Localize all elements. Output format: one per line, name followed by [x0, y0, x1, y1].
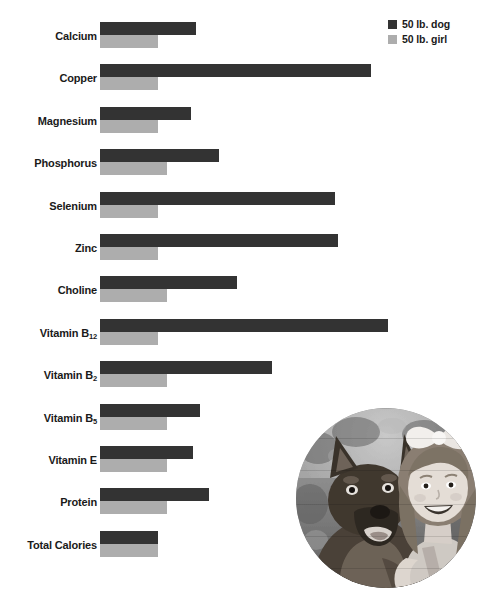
bar-girl-vitamin-b5 [100, 417, 167, 430]
chart-row-phosphorus: Phosphorus [0, 149, 495, 191]
row-label-vitamin-b5-main: Vitamin B [44, 412, 93, 424]
row-bars-zinc [100, 234, 338, 260]
row-label-vitamin-b12: Vitamin B12 [0, 327, 97, 341]
bar-dog-phosphorus [100, 149, 219, 162]
row-bars-vitamin-e [100, 446, 193, 472]
bar-girl-vitamin-b2 [100, 374, 167, 387]
chart-row-calcium: Calcium [0, 22, 495, 64]
bar-girl-protein [100, 501, 167, 514]
row-label-copper: Copper [0, 72, 97, 85]
row-bars-vitamin-b12 [100, 319, 388, 345]
bar-dog-calcium [100, 22, 196, 35]
row-label-vitamin-b2-subscript: 2 [93, 374, 97, 383]
chart-row-copper: Copper [0, 64, 495, 106]
bar-girl-copper [100, 77, 158, 90]
bar-dog-vitamin-b5 [100, 404, 200, 417]
row-bars-phosphorus [100, 149, 219, 175]
dog-and-girl-photo [296, 408, 476, 588]
bar-girl-choline [100, 289, 167, 302]
bar-dog-total-calories [100, 531, 158, 544]
row-label-choline: Choline [0, 284, 97, 297]
bar-girl-selenium [100, 205, 158, 218]
dog-and-girl-photo-graphic [296, 408, 476, 588]
bar-girl-calcium [100, 35, 158, 48]
bar-dog-vitamin-e [100, 446, 193, 459]
row-label-magnesium: Magnesium [0, 115, 97, 128]
row-label-vitamin-b5-subscript: 5 [93, 417, 97, 426]
row-bars-magnesium [100, 107, 191, 133]
bar-dog-copper [100, 64, 371, 77]
row-bars-vitamin-b2 [100, 361, 272, 387]
chart-row-vitamin-b2: Vitamin B2 [0, 361, 495, 403]
bar-dog-protein [100, 488, 209, 501]
bar-girl-total-calories [100, 544, 158, 557]
row-label-phosphorus: Phosphorus [0, 157, 97, 170]
bar-dog-magnesium [100, 107, 191, 120]
row-label-vitamin-b12-main: Vitamin B [40, 327, 89, 339]
bar-girl-zinc [100, 247, 158, 260]
row-label-vitamin-e: Vitamin E [0, 454, 97, 467]
row-bars-calcium [100, 22, 196, 48]
chart-row-vitamin-b12: Vitamin B12 [0, 319, 495, 361]
chart-row-selenium: Selenium [0, 192, 495, 234]
row-bars-vitamin-b5 [100, 404, 200, 430]
row-label-vitamin-b2: Vitamin B2 [0, 369, 97, 383]
bar-dog-zinc [100, 234, 338, 247]
row-bars-total-calories [100, 531, 158, 557]
nutrient-comparison-chart: 50 lb. dog 50 lb. girl Calcium Copper Ma… [0, 0, 495, 596]
chart-row-magnesium: Magnesium [0, 107, 495, 149]
row-label-vitamin-b2-main: Vitamin B [44, 369, 93, 381]
bar-girl-vitamin-e [100, 459, 167, 472]
chart-row-zinc: Zinc [0, 234, 495, 276]
row-label-vitamin-b12-subscript: 12 [89, 332, 97, 341]
bar-dog-vitamin-b12 [100, 319, 388, 332]
bar-dog-selenium [100, 192, 335, 205]
row-bars-choline [100, 276, 237, 302]
bar-dog-vitamin-b2 [100, 361, 272, 374]
row-label-selenium: Selenium [0, 200, 97, 213]
row-bars-protein [100, 488, 209, 514]
bar-dog-choline [100, 276, 237, 289]
row-label-protein: Protein [0, 496, 97, 509]
bar-girl-phosphorus [100, 162, 167, 175]
row-bars-copper [100, 64, 371, 90]
row-label-zinc: Zinc [0, 242, 97, 255]
row-label-calcium: Calcium [0, 30, 97, 43]
row-label-total-calories: Total Calories [0, 539, 97, 552]
bar-girl-vitamin-b12 [100, 332, 158, 345]
row-label-vitamin-b5: Vitamin B5 [0, 412, 97, 426]
chart-row-choline: Choline [0, 276, 495, 318]
row-bars-selenium [100, 192, 335, 218]
bar-girl-magnesium [100, 120, 158, 133]
